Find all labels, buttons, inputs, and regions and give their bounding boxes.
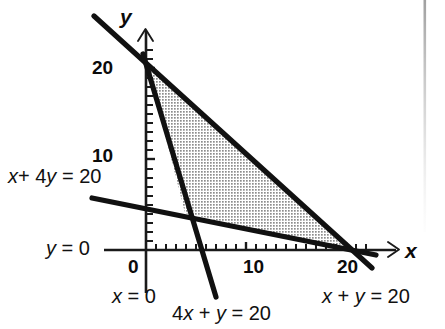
eq-var-y: y: [216, 302, 226, 324]
eq-rhs: = 20: [232, 302, 271, 324]
y-tick-label-20: 20: [92, 58, 113, 77]
eq-coeff: 4: [172, 302, 183, 324]
equation-label-x-equals-0: x = 0: [112, 286, 156, 306]
x-axis-label: x: [405, 240, 417, 261]
eq-rhs: = 0: [62, 237, 90, 259]
eq-var-x: x: [8, 165, 18, 187]
y-axis-label: y: [120, 6, 132, 27]
eq-var-x: x: [183, 302, 193, 324]
eq-var-x: x: [322, 285, 332, 307]
equation-label-y-equals-0: y = 0: [46, 238, 90, 258]
eq-rhs: = 20: [370, 285, 409, 307]
eq-var-y: y: [46, 237, 56, 259]
eq-op: +: [199, 302, 211, 324]
eq-rhs: = 0: [128, 285, 156, 307]
x-tick-label-10: 10: [243, 257, 264, 276]
eq-rhs: = 20: [62, 165, 101, 187]
eq-op: +: [338, 285, 350, 307]
eq-var-y: y: [46, 165, 56, 187]
y-tick-label-10: 10: [92, 146, 113, 165]
eq-var-y: y: [355, 285, 365, 307]
equation-label-x-plus-y: x + y = 20: [322, 286, 410, 306]
equation-label-4x-plus-y: 4x + y = 20: [172, 303, 271, 323]
equation-label-x-plus-4y: x+ 4y = 20: [8, 166, 101, 186]
x-tick-label-0: 0: [128, 257, 139, 276]
eq-op: + 4: [18, 165, 46, 187]
eq-var-x: x: [112, 285, 122, 307]
x-tick-label-20: 20: [337, 257, 358, 276]
scan-edge-artifact: [424, 0, 427, 232]
line-x-plus-y-20: [94, 16, 372, 268]
linear-programming-graph: 20 10 0 10 20 y x x+ 4y = 20 y = 0 x = 0…: [0, 0, 445, 329]
